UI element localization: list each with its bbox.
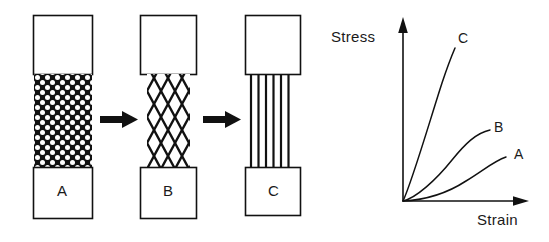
curve-c — [403, 48, 455, 201]
specimen-c-label: C — [268, 182, 279, 199]
specimen-a-gauge-braid — [34, 74, 92, 168]
specimen-c-gauge-fibers — [251, 74, 289, 168]
y-axis-label-stress: Stress — [331, 28, 375, 45]
specimen-b-label: B — [163, 182, 174, 199]
y-axis-stress — [398, 17, 408, 201]
specimen-c-grip-top — [246, 16, 301, 75]
curve-a-label: A — [514, 146, 524, 162]
x-axis-strain — [403, 196, 529, 206]
curve-b-label: B — [494, 119, 504, 135]
figure-canvas: A B C Stress Strain C B A — [0, 0, 549, 242]
specimen-a-label: A — [57, 182, 68, 199]
curve-c-label: C — [458, 30, 468, 46]
specimen-b-grip-top — [141, 16, 197, 75]
specimen-b-gauge-braid — [147, 74, 190, 168]
x-axis-label-strain: Strain — [477, 211, 518, 228]
specimen-a-grip-top — [34, 16, 93, 75]
arrow-b-to-c — [203, 111, 241, 128]
curve-a — [403, 157, 506, 201]
arrow-a-to-b — [100, 111, 138, 128]
